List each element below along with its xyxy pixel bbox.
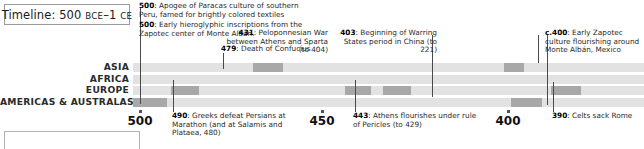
region-label-europe: EUROPE <box>0 84 129 95</box>
annotation-year: 443 <box>353 111 368 120</box>
title-era-end: CE <box>120 11 132 21</box>
anno-403-warring-states: 403: Beginning of Warring States period … <box>337 29 437 55</box>
grid-row <box>133 75 644 84</box>
grid-row <box>133 63 644 72</box>
annotation-year: 431 <box>239 28 254 37</box>
event-bar[interactable] <box>551 86 581 95</box>
annotation-year: 403 <box>340 28 355 37</box>
timeline-grid <box>133 63 644 107</box>
anno-500-paracas: 500: Apogee of Paracas culture of southe… <box>139 2 309 19</box>
event-bar[interactable] <box>345 86 371 95</box>
anno-443-pericles: 443: Athens flourishes under rule of Per… <box>353 112 478 129</box>
timeline-title-box: Timeline: 500 BCE–1 CE <box>4 4 130 25</box>
region-label-americas-australasia: AMERICAS & AUSTRALASIA <box>0 96 129 107</box>
annotation-year: c.400 <box>545 28 567 37</box>
anno-400-zapotec: c.400: Early Zapotec culture flourishing… <box>545 29 644 55</box>
title-era-start: BCE <box>85 11 103 21</box>
region-label-africa: AFRICA <box>0 73 129 84</box>
annotation-year: 490 <box>172 111 187 120</box>
region-label-column: ASIAAFRICAEUROPEAMERICAS & AUSTRALASIA <box>0 61 129 109</box>
event-bar[interactable] <box>253 63 283 72</box>
event-bar[interactable] <box>383 86 411 95</box>
axis-tick <box>321 110 324 113</box>
anno-490-marathon: 490: Greeks defeat Persians at Marathon … <box>172 112 297 138</box>
event-bar[interactable] <box>171 86 199 95</box>
next-section-box <box>4 131 140 149</box>
region-label-asia: ASIA <box>0 61 129 72</box>
page-title: Timeline: 500 BCE–1 CE <box>2 8 133 22</box>
annotation-year: 500 <box>139 1 154 10</box>
grid-row <box>133 98 644 107</box>
event-bar[interactable] <box>504 63 524 72</box>
title-range-separator: –1 <box>103 8 120 22</box>
annotation-leader-line <box>553 82 554 112</box>
anno-390-celts: 390: Celts sack Rome <box>552 112 644 121</box>
annotation-leader-line <box>355 80 356 112</box>
axis-label-400: 400 <box>495 114 520 128</box>
title-prefix: Timeline: 500 <box>2 8 85 22</box>
annotation-leader-line <box>538 35 539 63</box>
event-bar[interactable] <box>511 98 542 107</box>
annotation-leader-line <box>223 53 224 69</box>
annotation-leader-line <box>173 80 174 112</box>
annotation-year: 390 <box>552 111 567 120</box>
event-bar[interactable] <box>133 98 167 107</box>
anno-431-peloponnesian: 431: Peloponnesian War between Athens an… <box>226 29 328 55</box>
axis-tick <box>507 110 510 113</box>
axis-label-450: 450 <box>309 114 334 128</box>
axis-tick <box>139 110 142 113</box>
axis-label-500: 500 <box>127 114 152 128</box>
annotation-year: 500 <box>139 20 154 29</box>
